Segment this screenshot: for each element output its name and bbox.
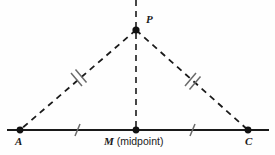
diagram-canvas [0, 0, 275, 155]
label-A: A [15, 136, 22, 147]
segment-PA-dashed [20, 30, 136, 130]
vertex-point-P [132, 26, 139, 33]
segment-PC-dashed [136, 30, 248, 130]
label-P: P [146, 14, 153, 25]
geometry-figure: P A C M (midpoint) [0, 0, 275, 155]
vertex-point-M [133, 127, 140, 134]
label-M-note: (midpoint) [114, 135, 164, 147]
label-M-letter: M [104, 135, 114, 147]
label-M-midpoint: M (midpoint) [104, 136, 163, 147]
vertex-point-A [17, 127, 24, 134]
vertex-point-C [245, 127, 252, 134]
label-C: C [245, 136, 252, 147]
